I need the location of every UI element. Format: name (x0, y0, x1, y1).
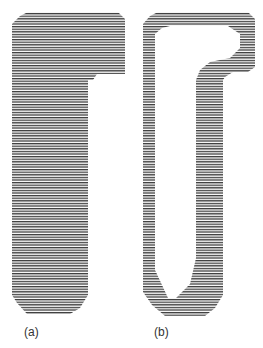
panel-a-shape (0, 0, 130, 330)
panel-b-shape (130, 0, 263, 330)
panel-b: (b) (130, 0, 263, 330)
panel-a-label: (a) (24, 325, 39, 339)
panel-b-label: (b) (154, 325, 169, 339)
panel-a: (a) (0, 0, 130, 330)
